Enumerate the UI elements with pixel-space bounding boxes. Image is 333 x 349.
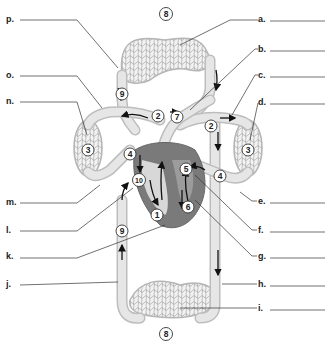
marker-5: 5 [180, 163, 192, 175]
label-p: p. [6, 14, 118, 68]
marker-4-left: 4 [124, 148, 136, 160]
svg-text:p.: p. [6, 14, 14, 24]
circulatory-diagram: 8 9 2 7 2 3 3 4 4 5 10 6 1 9 8 a. b. c. … [0, 0, 333, 349]
svg-text:6: 6 [186, 202, 191, 212]
svg-text:f.: f. [258, 225, 264, 235]
marker-1: 1 [151, 209, 163, 221]
svg-text:5: 5 [184, 164, 189, 174]
svg-text:9: 9 [120, 226, 125, 236]
marker-3-left: 3 [82, 144, 94, 156]
label-k: k. [6, 225, 165, 261]
marker-8-top: 8 [160, 8, 173, 21]
svg-text:10: 10 [135, 177, 143, 184]
svg-text:4: 4 [218, 171, 223, 181]
marker-2-right: 2 [205, 120, 217, 132]
svg-text:d.: d. [258, 97, 266, 107]
marker-6: 6 [182, 201, 194, 213]
svg-text:j.: j. [5, 279, 11, 289]
label-a: a. [180, 14, 325, 45]
marker-4-right: 4 [214, 170, 226, 182]
label-e: e. [240, 192, 325, 206]
marker-8-bottom: 8 [160, 328, 173, 341]
svg-text:e.: e. [258, 196, 266, 206]
label-m: m. [6, 185, 100, 207]
svg-text:h.: h. [258, 279, 266, 289]
marker-7: 7 [171, 111, 183, 123]
svg-text:2: 2 [209, 121, 214, 131]
svg-text:n.: n. [6, 96, 14, 106]
label-j: j. [5, 279, 118, 289]
svg-text:8: 8 [164, 329, 169, 339]
svg-text:k.: k. [6, 251, 14, 261]
svg-text:1: 1 [155, 210, 160, 220]
svg-text:3: 3 [246, 145, 251, 155]
svg-text:a.: a. [258, 14, 266, 24]
label-h: h. [222, 279, 325, 289]
svg-text:2: 2 [156, 111, 161, 121]
svg-text:g.: g. [258, 251, 266, 261]
svg-text:b.: b. [258, 44, 266, 54]
marker-10: 10 [133, 174, 146, 187]
label-c: c. [232, 70, 325, 115]
svg-text:8: 8 [164, 9, 169, 19]
svg-text:m.: m. [6, 197, 17, 207]
svg-text:3: 3 [86, 145, 91, 155]
heart [134, 143, 205, 228]
svg-text:l.: l. [6, 225, 11, 235]
svg-text:c.: c. [258, 70, 266, 80]
marker-9-bottom: 9 [116, 225, 128, 237]
upper-body-capillary-bed [121, 38, 210, 83]
svg-text:i.: i. [258, 303, 263, 313]
svg-text:9: 9 [120, 89, 125, 99]
label-n: n. [6, 96, 87, 135]
marker-2-left: 2 [152, 110, 164, 122]
marker-9-top: 9 [116, 88, 128, 100]
marker-3-right: 3 [242, 144, 254, 156]
svg-text:o.: o. [6, 70, 14, 80]
label-d: d. [250, 97, 325, 140]
svg-text:4: 4 [128, 149, 133, 159]
label-l: l. [6, 188, 133, 235]
svg-text:7: 7 [175, 112, 180, 122]
